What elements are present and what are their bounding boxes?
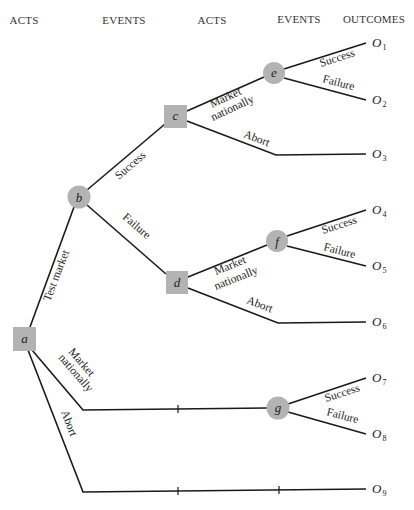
outcome-labels: O1O2O3O4O5O6O7O8O9 — [372, 35, 386, 498]
node-a: a — [13, 327, 36, 351]
edge-b-c — [87, 124, 165, 190]
decision-tree: ACTS EVENTS ACTS EVENTS OUTCOMES Test ma… — [0, 0, 414, 510]
edge-label-abort-a: Abort — [59, 408, 80, 438]
edge-label-failure-f: Failure — [322, 240, 357, 260]
outcome-label-3: O3 — [372, 146, 386, 163]
node-label-a: a — [21, 331, 28, 346]
edge-label-test-market: Test market — [41, 247, 72, 302]
node-label-b: b — [76, 190, 83, 205]
node-c: c — [164, 105, 187, 128]
edge-label-success-g: Success — [323, 381, 362, 404]
header-events-1: EVENTS — [102, 14, 145, 26]
node-d: d — [166, 271, 188, 294]
outcome-label-1: O1 — [372, 35, 386, 52]
outcome-label-6: O6 — [372, 314, 386, 331]
edge-label-failure-b: Failure — [121, 210, 153, 240]
node-e: e — [263, 62, 285, 84]
node-f: f — [266, 230, 288, 252]
outcome-label-2: O2 — [372, 92, 386, 109]
outcome-label-8: O8 — [372, 426, 386, 443]
node-g: g — [267, 397, 290, 420]
edge-label-abort-c: Abort — [242, 128, 272, 149]
edge-label-failure-g: Failure — [325, 405, 360, 425]
node-label-g: g — [275, 400, 282, 415]
header-events-2: EVENTS — [277, 13, 320, 25]
node-b: b — [68, 186, 91, 209]
outcome-label-4: O4 — [372, 202, 386, 219]
header-acts-2: ACTS — [198, 14, 227, 26]
edge-label-success-e: Success — [318, 46, 357, 69]
edge-c-o3 — [187, 121, 366, 155]
edge-d-o6 — [188, 288, 366, 323]
node-label-d: d — [174, 275, 181, 290]
outcome-label-7: O7 — [372, 370, 386, 387]
outcome-label-9: O9 — [372, 481, 386, 498]
header-acts-1: ACTS — [10, 14, 39, 26]
edge-label-success-f: Success — [320, 213, 359, 236]
outcome-label-5: O5 — [372, 258, 386, 275]
header-outcomes: OUTCOMES — [343, 13, 405, 25]
node-label-c: c — [173, 108, 179, 123]
node-label-e: e — [271, 65, 277, 80]
